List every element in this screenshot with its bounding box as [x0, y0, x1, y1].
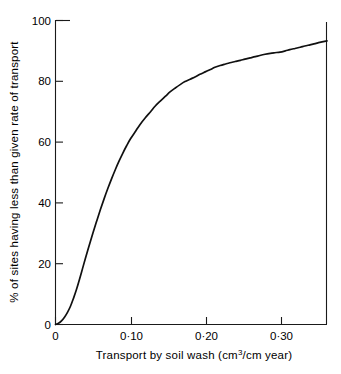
x-axis-title-tail: /cm year) [243, 349, 293, 361]
y-tick-label-60: 60 [38, 136, 51, 148]
ogive-chart: 100 80 60 40 20 0 0 0·10 0·20 0·30 Trans… [0, 0, 341, 374]
y-tick-label-100: 100 [32, 15, 51, 27]
chart-figure: 100 80 60 40 20 0 0 0·10 0·20 0·30 Trans… [0, 0, 341, 374]
y-axis-title: % of sites having less than given rate o… [8, 41, 20, 303]
y-axis-title-text: % of sites having less than given rate o… [8, 41, 20, 303]
x-tick-marks [56, 317, 282, 325]
x-axis-title: Transport by soil wash (cm3/cm year) [96, 348, 293, 362]
x-tick-label-010: 0·10 [120, 330, 143, 342]
x-tick-label-020: 0·20 [195, 330, 218, 342]
x-tick-label-030: 0·30 [270, 330, 293, 342]
axes-spines [56, 20, 328, 325]
y-tick-label-40: 40 [38, 197, 51, 209]
y-tick-label-80: 80 [38, 75, 51, 87]
y-tick-labels: 100 80 60 40 20 0 [32, 15, 51, 331]
data-series-line [56, 41, 328, 325]
x-tick-labels: 0 0·10 0·20 0·30 [52, 330, 293, 342]
y-tick-marks [56, 21, 64, 325]
y-tick-label-20: 20 [38, 258, 51, 270]
y-tick-label-0: 0 [45, 319, 51, 331]
svg-text:Transport by soil wash (cm3/c: Transport by soil wash (cm3/cm year) [96, 348, 293, 362]
x-tick-label-0: 0 [52, 330, 58, 342]
x-axis-title-main: Transport by soil wash (cm [96, 349, 238, 361]
